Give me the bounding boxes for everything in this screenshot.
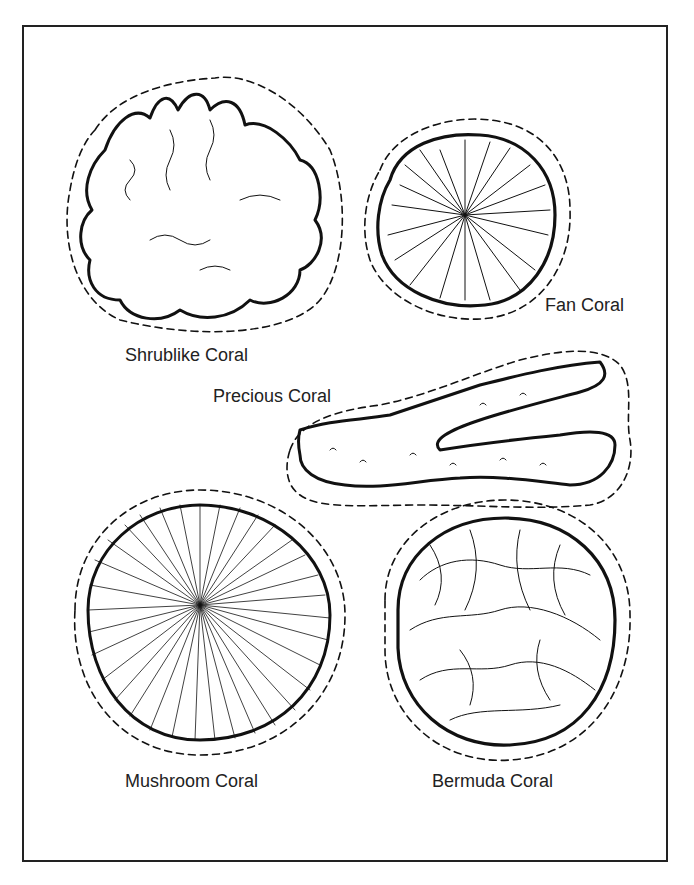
coral-illustrations (0, 0, 694, 885)
shrublike-coral-illustration (67, 77, 342, 332)
label-shrublike-coral: Shrublike Coral (125, 345, 248, 366)
precious-coral-illustration (287, 351, 631, 507)
label-precious-coral: Precious Coral (213, 386, 331, 407)
mushroom-coral-illustration (75, 490, 345, 755)
label-bermuda-coral: Bermuda Coral (432, 771, 553, 792)
label-fan-coral: Fan Coral (545, 295, 624, 316)
bermuda-coral-illustration (385, 500, 630, 760)
fan-coral-illustration (365, 119, 570, 319)
label-mushroom-coral: Mushroom Coral (125, 771, 258, 792)
